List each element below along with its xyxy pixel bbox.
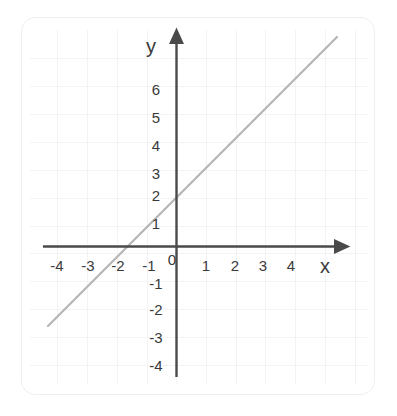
grid-lines	[30, 30, 368, 385]
y-tick-label-neg3: -3	[146, 330, 166, 345]
y-tick-label-3: 3	[148, 166, 164, 181]
x-tick-label-neg4: -4	[47, 258, 67, 273]
x-tick-label-1: 1	[199, 258, 213, 273]
x-tick-label-neg3: -3	[78, 258, 98, 273]
y-tick-label-5: 5	[148, 110, 164, 125]
x-axis-label: x	[320, 256, 330, 276]
origin-label-0: 0	[165, 252, 179, 267]
x-tick-label-2: 2	[228, 258, 242, 273]
y-tick-label-neg2: -2	[146, 302, 166, 317]
y-tick-label-1: 1	[148, 216, 164, 231]
x-tick-label-neg1: -1	[139, 258, 159, 273]
x-tick-label-neg2: -2	[108, 258, 128, 273]
y-tick-label-6: 6	[148, 82, 164, 97]
screenshot-root: y x 6 5 4 3 2 1 -1 -2 -3 -4 -4 -3 -2 -1 …	[0, 0, 397, 416]
y-tick-label-4: 4	[148, 138, 164, 153]
x-tick-label-4: 4	[284, 258, 298, 273]
y-axis-label: y	[146, 36, 156, 56]
y-tick-label-neg1: -1	[146, 276, 166, 291]
y-tick-label-2: 2	[148, 188, 164, 203]
x-tick-label-3: 3	[256, 258, 270, 273]
y-tick-label-neg4: -4	[146, 358, 166, 373]
coordinate-plane-figure	[0, 0, 397, 416]
plotted-line	[48, 37, 337, 326]
